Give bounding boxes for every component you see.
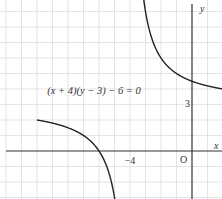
- x-tick-label-neg4: −4: [125, 155, 136, 166]
- x-axis-label: x: [213, 140, 219, 151]
- y-tick-label-3: 3: [185, 98, 190, 109]
- hyperbola-left-branch: [37, 120, 115, 199]
- y-axis-label: y: [199, 3, 205, 14]
- hyperbola-right-branch: [144, 0, 222, 89]
- equation-label: (x + 4)(y − 3) − 6 = 0: [47, 85, 141, 97]
- hyperbola-chart: (x + 4)(y − 3) − 6 = 0yxO−43: [0, 0, 222, 199]
- origin-label: O: [180, 154, 187, 165]
